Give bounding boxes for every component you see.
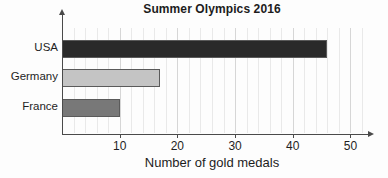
y-axis-category-labels: USAGermanyFrance (0, 28, 62, 133)
x-tick-label: 40 (273, 139, 313, 153)
x-tick (120, 134, 121, 138)
category-label-france: France (0, 100, 62, 112)
bar-germany (62, 69, 160, 87)
x-axis-title: Number of gold medals (62, 155, 362, 170)
x-tick-label: 10 (100, 139, 140, 153)
x-axis-line (62, 134, 369, 135)
category-label-germany: Germany (0, 70, 62, 82)
bar-usa (62, 40, 327, 58)
plot-area (62, 28, 362, 133)
chart-title: Summer Olympics 2016 (62, 2, 362, 16)
x-tick (235, 134, 236, 138)
gridline (362, 28, 363, 133)
gridline (350, 28, 351, 133)
x-tick-label: 30 (215, 139, 255, 153)
x-axis-arrow-icon (368, 131, 374, 137)
x-tick (293, 134, 294, 138)
y-axis-arrow-icon (59, 9, 65, 15)
x-tick (350, 134, 351, 138)
x-tick-label: 20 (157, 139, 197, 153)
y-axis-line (62, 14, 63, 135)
bar-france (62, 99, 120, 117)
gridline (339, 28, 340, 133)
category-label-usa: USA (0, 41, 62, 53)
bar-chart: Summer Olympics 2016 1020304050 USAGerma… (0, 0, 388, 178)
x-tick (177, 134, 178, 138)
x-tick-label: 50 (330, 139, 370, 153)
gridline (327, 28, 328, 133)
